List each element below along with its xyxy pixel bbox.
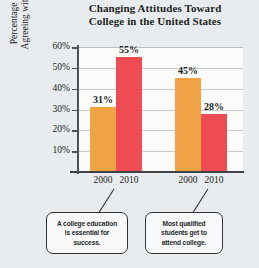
y-axis-label: Percentage of U.S. Adults Agreeing with … xyxy=(7,0,33,62)
y-tick-label-30: 30% xyxy=(38,104,70,114)
callout-qualified-line-2: students get to xyxy=(161,228,207,238)
bar-value-label-55: 55% xyxy=(110,44,148,55)
chart-title-line-1: Changing Attitudes Toward xyxy=(54,2,256,15)
callout-essential-line-3: success. xyxy=(57,238,117,248)
y-tick-50 xyxy=(72,68,78,70)
callout-qualified: Most qualified students get to attend co… xyxy=(145,212,223,254)
callout-qualified-text: Most qualified students get to attend co… xyxy=(161,219,207,248)
callout-essential-text: A college education is essential for suc… xyxy=(57,219,117,248)
y-tick-60 xyxy=(72,47,78,49)
bar-value-label-28: 28% xyxy=(195,101,233,112)
callout-essential-line-1: A college education xyxy=(57,219,117,229)
gridline-40 xyxy=(78,89,243,90)
chart-title-line-2: College in the United States xyxy=(54,15,256,28)
y-tick-label-20: 20% xyxy=(38,124,70,134)
x-axis-label-1-2010: 2010 xyxy=(195,175,233,185)
chart-title: Changing Attitudes Toward College in the… xyxy=(54,2,256,27)
y-tick-label-10: 10% xyxy=(38,145,70,155)
chart-figure: Changing Attitudes Toward College in the… xyxy=(0,0,259,268)
bar-value-label-45: 45% xyxy=(169,65,207,76)
callout-qualified-line-3: attend college. xyxy=(161,238,207,248)
y-tick-label-40: 40% xyxy=(38,83,70,93)
x-axis-label-0-2010: 2010 xyxy=(110,175,148,185)
x-axis-line xyxy=(70,171,244,173)
bar-value-label-31: 31% xyxy=(84,94,122,105)
y-tick-20 xyxy=(72,130,78,132)
bar-2010-28 xyxy=(201,114,227,172)
y-axis-label-line-2: Agreeing with the Statement xyxy=(20,0,32,49)
bar-2010-55 xyxy=(116,57,142,172)
callout-qualified-line-1: Most qualified xyxy=(161,219,207,229)
y-tick-30 xyxy=(72,110,78,112)
callout-essential-line-2: is essential for xyxy=(57,228,117,238)
gridline-50 xyxy=(78,68,243,69)
y-tick-label-50: 50% xyxy=(38,62,70,72)
y-tick-10 xyxy=(72,151,78,153)
callout-essential: A college education is essential for suc… xyxy=(46,212,128,254)
y-tick-label-60: 60% xyxy=(38,41,70,51)
gridline-60 xyxy=(78,47,243,48)
y-tick-40 xyxy=(72,89,78,91)
bar-2000-31 xyxy=(90,107,116,172)
y-axis-label-line-1: Percentage of U.S. Adults xyxy=(9,0,21,49)
bar-2000-45 xyxy=(175,78,201,172)
